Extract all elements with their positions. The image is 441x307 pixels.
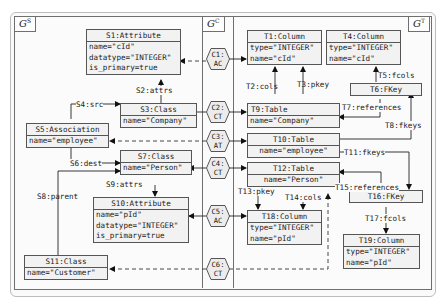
node-t6-fkey[interactable]: T6:FKey <box>350 83 422 96</box>
corr-id: C2: <box>206 103 230 112</box>
corr-type: AC <box>206 216 230 225</box>
corr-type: CT <box>206 269 230 278</box>
edge-label-t14: T14:cols <box>285 193 322 202</box>
node-title: S1:Attribute <box>87 30 180 42</box>
node-title: T16:FKey <box>350 191 422 202</box>
node-title: T18:Column <box>248 211 321 223</box>
node-title: T12:Table <box>248 163 339 175</box>
corr-id: C1: <box>206 50 230 59</box>
edge-label-t8: T8:fkeys <box>385 121 422 130</box>
corr-node-c1[interactable]: C1: AC <box>206 48 230 70</box>
edge-label-s8: S8:parent <box>37 192 78 201</box>
node-title: S5:Association <box>27 124 108 136</box>
node-t18-column[interactable]: T18:Column type="INTEGER" name="pId" <box>247 210 322 245</box>
node-title: S11:Class <box>25 256 107 268</box>
node-attr: name="cId" <box>87 42 180 53</box>
node-attr: name="cId" <box>248 54 321 65</box>
node-attr: datatype="INTEGER" <box>94 221 188 232</box>
corr-type: AC <box>206 59 230 68</box>
node-title: T1:Column <box>248 31 321 43</box>
edge-label-t11: T11:fkeys <box>344 148 385 157</box>
node-attr: name="pId" <box>94 210 188 221</box>
edge-label-s4: S4:src <box>76 100 103 109</box>
corr-type: CT <box>206 168 230 177</box>
corr-id: C6: <box>206 260 230 269</box>
node-title: S10:Attribute <box>94 198 188 210</box>
edge-label-t17: T17:fcols <box>365 214 406 223</box>
node-attr: name="Company" <box>121 116 196 127</box>
corr-type: CT <box>206 112 230 121</box>
node-title: T19:Column <box>344 235 419 247</box>
node-t1-column[interactable]: T1:Column type="INTEGER" name="cId" <box>247 30 322 65</box>
corr-type: AT <box>206 141 230 150</box>
edge-label-t13: T13:pkey <box>238 187 275 196</box>
node-attr: is_primary=true <box>87 63 180 74</box>
node-title: T4:Column <box>327 31 400 43</box>
node-attr: name="cId" <box>327 54 400 65</box>
node-attr: name="pId" <box>344 258 419 269</box>
node-attr: type="INTEGER" <box>327 43 400 54</box>
edge-label-t5: T5:fcols <box>378 71 415 80</box>
node-attr: name="pId" <box>248 234 321 245</box>
node-s1-attribute[interactable]: S1:Attribute name="cId" datatype="INTEGE… <box>86 29 181 75</box>
node-attr: type="INTEGER" <box>344 247 419 258</box>
node-attr: name="employee" <box>248 146 339 157</box>
node-s11-class[interactable]: S11:Class name="Customer" <box>24 255 108 280</box>
node-s3-class[interactable]: S3:Class name="Company" <box>120 103 197 128</box>
node-attr: type="INTEGER" <box>248 43 321 54</box>
node-s5-association[interactable]: S5:Association name="employee" <box>26 123 109 148</box>
corr-id: C4: <box>206 159 230 168</box>
node-t10-table[interactable]: T10:Table name="employee" <box>247 133 340 158</box>
node-t19-column[interactable]: T19:Column type="INTEGER" name="pId" <box>343 234 420 269</box>
corr-node-c2[interactable]: C2: CT <box>206 101 230 123</box>
node-attr: name="employee" <box>27 136 108 147</box>
node-attr: name="Customer" <box>25 268 107 279</box>
edge-label-t2: T2:cols <box>246 82 278 91</box>
corr-node-c6[interactable]: C6: CT <box>206 258 230 280</box>
edge-label-t7: T7:references <box>342 103 401 112</box>
node-attr: name="Person" <box>121 163 191 174</box>
corr-id: C3: <box>206 132 230 141</box>
node-t12-table[interactable]: T12:Table name="Person" <box>247 162 340 187</box>
node-attr: name="Company" <box>248 116 339 127</box>
node-attr: name="Person" <box>248 175 339 186</box>
edge-label-t15: T15:references <box>335 183 399 192</box>
node-title: T6:FKey <box>351 84 421 95</box>
node-t9-table[interactable]: T9:Table name="Company" <box>247 103 340 128</box>
node-t4-column[interactable]: T4:Column type="INTEGER" name="cId" <box>326 30 401 65</box>
edge-label-s9: S9:attrs <box>106 180 143 189</box>
edge-label-s6: S6:dest <box>70 159 102 168</box>
node-attr: type="INTEGER" <box>248 223 321 234</box>
node-attr: datatype="INTEGER" <box>87 53 180 64</box>
node-title: T10:Table <box>248 134 339 146</box>
node-s10-attribute[interactable]: S10:Attribute name="pId" datatype="INTEG… <box>93 197 189 243</box>
corr-id: C5: <box>206 207 230 216</box>
corr-node-c5[interactable]: C5: AC <box>206 205 230 227</box>
corr-node-c4[interactable]: C4: CT <box>206 157 230 179</box>
node-title: S3:Class <box>121 104 196 116</box>
node-title: S7:Class <box>121 151 191 163</box>
edge-label-s2: S2:attrs <box>136 86 173 95</box>
node-title: T9:Table <box>248 104 339 116</box>
corr-node-c3[interactable]: C3: AT <box>206 130 230 152</box>
edge-label-t3: T3:pkey <box>297 80 329 89</box>
node-s7-class[interactable]: S7:Class name="Person" <box>120 150 192 175</box>
node-attr: is_primary=true <box>94 231 188 242</box>
